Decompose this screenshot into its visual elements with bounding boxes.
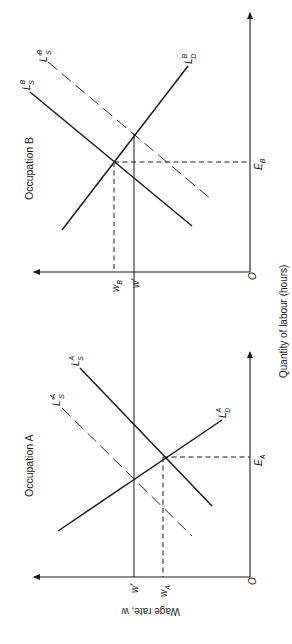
wage-axis-label: Wage rate, w (121, 606, 180, 617)
supply-curve-b (30, 92, 192, 226)
shifted-supply-curve-b (48, 62, 212, 200)
quantity-label-ea: EA (253, 454, 266, 466)
origin-label-a: O (247, 577, 258, 585)
curve-label-supply-b: LBS (19, 79, 35, 90)
quantity-label-eb: EB (253, 158, 266, 170)
origin-label-b: O (247, 272, 258, 280)
panel-title-b: Occupation B (23, 137, 35, 200)
panel-occupation-a (34, 352, 250, 577)
quantity-axis-label: Quantity of labour (hours) (278, 265, 289, 378)
curve-label-shifted-supply-b: L'BS (36, 50, 52, 62)
supply-curve-a (80, 368, 212, 506)
panel-title-a: Occupation A (23, 435, 35, 497)
panel-occupation-b (30, 13, 250, 272)
wage-label-wprime-b: w' (130, 278, 141, 288)
curve-label-demand-a: LAD (215, 407, 231, 418)
wage-label-wa: wA (158, 585, 171, 597)
curve-label-supply-a: LAS (68, 355, 84, 366)
demand-curve-a (58, 420, 222, 531)
curve-label-demand-b: LBD (181, 53, 197, 64)
shifted-supply-curve-a (62, 408, 192, 536)
wage-label-wb: wB (110, 280, 123, 292)
demand-curve-b (62, 66, 188, 230)
wage-label-wprime-a: w' (129, 583, 140, 593)
curve-label-shifted-supply-a: L'AS (49, 394, 65, 406)
labour-market-diagram: Occupation B Occupation A Quantity of la… (0, 0, 292, 644)
